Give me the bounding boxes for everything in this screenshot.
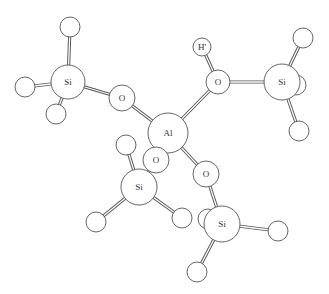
atom-circle <box>172 208 192 228</box>
atom-h <box>172 208 192 228</box>
atom-label: Si <box>135 182 143 192</box>
atom-h <box>15 77 35 97</box>
atom-h <box>289 121 309 141</box>
atom-circle <box>86 212 106 232</box>
atom-h <box>268 221 288 241</box>
atom-h <box>60 17 80 37</box>
atom-circle <box>293 28 313 48</box>
atom-o: O <box>193 161 219 187</box>
atom-si: Si <box>264 64 300 100</box>
atom-circle <box>187 262 207 282</box>
atom-label: Si <box>218 219 226 229</box>
atom-o: O <box>143 147 169 173</box>
atom-label: O <box>203 169 210 179</box>
atom-si: Si <box>204 206 240 242</box>
atom-h <box>116 135 136 155</box>
atom-label: Al <box>164 128 173 138</box>
atom-si: Si <box>51 65 85 99</box>
atom-label: O <box>119 93 126 103</box>
atom-hprime: H' <box>193 38 211 56</box>
atom-h <box>86 212 106 232</box>
atom-label: H' <box>198 42 206 52</box>
atom-layer: SiOH'OSiAlOSiOSi <box>15 17 313 282</box>
atom-circle <box>15 77 35 97</box>
atom-h <box>46 104 66 124</box>
atom-circle <box>268 221 288 241</box>
atom-o: O <box>109 85 135 111</box>
molecule-diagram: SiOH'OSiAlOSiOSi <box>0 0 329 294</box>
atom-h <box>293 28 313 48</box>
atom-si: Si <box>121 169 157 205</box>
atom-circle <box>46 104 66 124</box>
atom-circle <box>289 121 309 141</box>
atom-label: Si <box>64 77 72 87</box>
atom-label: O <box>215 77 222 87</box>
atom-label: O <box>153 155 160 165</box>
atom-circle <box>60 17 80 37</box>
atom-circle <box>116 135 136 155</box>
atom-h <box>187 262 207 282</box>
atom-label: Si <box>278 77 286 87</box>
atom-o: O <box>206 70 230 94</box>
